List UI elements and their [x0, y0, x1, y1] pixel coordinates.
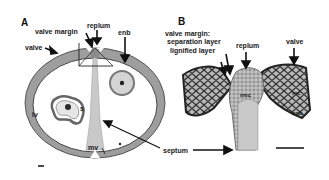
label-lignified-layer: lignified layer — [170, 47, 215, 54]
label-enb-a: enb — [118, 29, 130, 36]
label-septum: septum — [163, 147, 188, 154]
panel-b-section — [183, 65, 310, 150]
label-seed: s — [80, 105, 84, 112]
label-valve-b: valve — [286, 38, 304, 45]
label-valve-a: valve — [25, 44, 43, 51]
label-separation-layer: separation layer — [167, 38, 221, 45]
label-mv: mv — [88, 144, 98, 151]
label-mc: mc — [292, 90, 301, 96]
panel-a-letter: A — [21, 17, 28, 28]
label-valve-margin-a: valve margin — [35, 28, 78, 35]
label-valve-margin-b: valve margin: — [165, 30, 210, 37]
label-replum-a: replum — [87, 22, 110, 29]
label-rmc: rmc — [240, 92, 251, 98]
label-replum-b: replum — [236, 42, 259, 49]
label-lv: lv — [32, 111, 38, 118]
label-enb-b: enb — [292, 110, 303, 116]
panel-b-letter: B — [178, 16, 185, 27]
